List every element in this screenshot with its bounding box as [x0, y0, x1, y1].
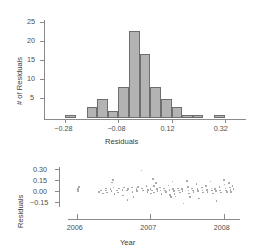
scatter-point	[179, 192, 181, 194]
scatter-point	[150, 193, 152, 195]
scatter-point	[224, 184, 226, 186]
scatter-point	[174, 193, 176, 195]
scatter-point	[226, 191, 228, 193]
scatter-point	[132, 191, 134, 193]
scatter-point	[141, 170, 143, 172]
scatter-point	[122, 189, 124, 191]
scatter-point	[111, 182, 113, 184]
scatter-point	[122, 195, 124, 197]
scatter-point	[215, 190, 217, 192]
scatter-point	[216, 200, 218, 202]
scatter-point	[131, 187, 133, 189]
histogram-bar	[150, 87, 161, 118]
scatter-point	[211, 188, 213, 190]
scatter-point	[193, 191, 195, 193]
scatter-point	[147, 189, 149, 191]
scatter-point	[106, 192, 108, 194]
scatter-point	[152, 178, 154, 180]
scatter-point	[233, 188, 235, 190]
histogram-bar	[87, 107, 98, 119]
scatter-point	[197, 190, 199, 192]
scatter-point	[211, 190, 213, 192]
scatter-point	[112, 179, 114, 181]
scatter-point	[133, 196, 135, 198]
scatter-point	[118, 188, 120, 190]
scatter-point	[223, 179, 225, 181]
histogram-bar	[108, 111, 119, 119]
histogram-bar	[182, 115, 193, 119]
scatter-point	[191, 188, 193, 190]
scatter-point	[186, 180, 188, 182]
scatter-point	[126, 190, 128, 192]
scatter-point	[111, 190, 113, 192]
scatter-point	[232, 185, 234, 187]
residuals-histogram: # of Residuals 25 20 15 10 5 −0.28 −0.08…	[0, 0, 262, 150]
residuals-vs-year-scatter: Residuals 0.30 0.15 0.00 −0.15 2006 2007…	[0, 150, 262, 251]
scatter-point	[98, 191, 100, 193]
scatter-point	[230, 191, 232, 193]
scatter-point	[219, 186, 221, 188]
histogram-bar	[172, 107, 183, 119]
scatter-point	[177, 188, 179, 190]
scatter-point	[183, 203, 185, 205]
scatter-point	[182, 190, 184, 192]
histogram-bar	[161, 99, 172, 118]
scatter-point	[114, 193, 116, 195]
scatter-point	[123, 187, 125, 189]
histogram-bars	[0, 0, 262, 150]
scatter-point	[105, 188, 107, 190]
scatter-point	[153, 192, 155, 194]
scatter-point	[188, 193, 190, 195]
figure-panel: # of Residuals 25 20 15 10 5 −0.28 −0.08…	[0, 0, 262, 251]
scatter-point	[137, 186, 139, 188]
scatter-point	[187, 186, 189, 188]
scatter-point	[220, 192, 222, 194]
scatter-point	[136, 190, 138, 192]
scatter-point	[196, 183, 198, 185]
scatter-point	[201, 187, 203, 189]
scatter-point	[77, 190, 79, 192]
scatter-point	[113, 187, 115, 189]
scatter-point	[127, 188, 129, 190]
scatter-point	[165, 191, 167, 193]
histogram-bar	[129, 31, 140, 118]
scatter-point	[155, 182, 157, 184]
histogram-bar	[118, 87, 129, 118]
scatter-point	[189, 196, 191, 198]
scatter-point	[141, 188, 143, 190]
scatter-point	[163, 188, 165, 190]
scatter-point	[146, 185, 148, 187]
scatter-point	[188, 190, 190, 192]
scatter-point	[228, 182, 230, 184]
scatter-point	[210, 181, 212, 183]
scatter-point	[175, 196, 177, 198]
scatter-point	[102, 193, 104, 195]
scatter-point	[147, 191, 149, 193]
histogram-bar	[65, 115, 76, 119]
scatter-point	[168, 185, 170, 187]
histogram-bar	[193, 115, 204, 119]
scatter-point	[161, 193, 163, 195]
scatter-point	[212, 193, 214, 195]
scatter-point	[172, 181, 174, 183]
histogram-bar	[140, 54, 151, 118]
scatter-point	[117, 192, 119, 194]
scatter-point	[207, 191, 209, 193]
scatter-point	[225, 188, 227, 190]
scatter-point	[100, 190, 102, 192]
scatter-point	[169, 189, 171, 191]
scatter-point	[127, 199, 129, 201]
scatter-points	[0, 150, 262, 251]
scatter-point	[205, 185, 207, 187]
scatter-point	[173, 190, 175, 192]
scatter-point	[153, 185, 155, 187]
scatter-point	[198, 198, 200, 200]
scatter-point	[159, 187, 161, 189]
scatter-point	[170, 196, 172, 198]
scatter-point	[142, 190, 144, 192]
scatter-point	[78, 186, 80, 188]
histogram-bar	[97, 99, 108, 118]
scatter-point	[157, 190, 159, 192]
scatter-point	[160, 190, 162, 192]
histogram-bar	[214, 115, 225, 119]
